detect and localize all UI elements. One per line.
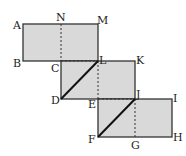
label-g: G: [131, 139, 140, 152]
label-m: M: [97, 14, 108, 27]
label-d: D: [51, 94, 60, 107]
label-k: K: [136, 54, 145, 67]
label-f: F: [88, 133, 96, 146]
label-h: H: [173, 131, 183, 144]
label-c: C: [51, 62, 59, 75]
label-n: N: [56, 11, 66, 24]
label-l: L: [99, 54, 107, 67]
label-b: B: [13, 57, 21, 70]
label-j: J: [135, 88, 140, 101]
geometry-figure: A N M B C L K D E J I F G H: [0, 0, 186, 156]
label-e: E: [88, 98, 96, 111]
label-a: A: [12, 19, 22, 32]
label-i: I: [173, 92, 177, 105]
